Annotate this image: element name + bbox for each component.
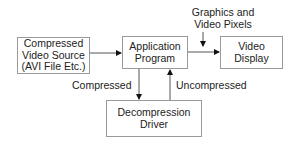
driver-line-1: Decompression — [118, 107, 191, 119]
display-line-1: Video — [238, 41, 265, 53]
compressed-label: Compressed — [72, 80, 132, 92]
compressed-video-source-box: Compressed Video Source (AVI File Etc.) — [17, 37, 90, 74]
video-display-box: Video Display — [220, 36, 283, 69]
app-line-1: Application — [129, 41, 180, 53]
graphics-line-1: Graphics and — [178, 7, 268, 19]
driver-line-2: Driver — [140, 119, 168, 131]
source-line-3: (AVI File Etc.) — [22, 61, 86, 73]
display-line-2: Display — [234, 53, 268, 65]
graphics-line-2: Video Pixels — [178, 19, 268, 31]
uncompressed-label: Uncompressed — [176, 80, 247, 92]
graphics-video-pixels-label: Graphics and Video Pixels — [178, 7, 268, 30]
app-line-2: Program — [135, 53, 175, 65]
decompression-driver-box: Decompression Driver — [106, 100, 202, 137]
application-program-box: Application Program — [122, 36, 188, 69]
